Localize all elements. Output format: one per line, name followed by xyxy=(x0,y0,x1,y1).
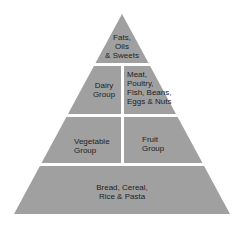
label-line: Rice & Pasta xyxy=(82,192,162,201)
label-fruit-group: Fruit Group xyxy=(142,135,182,153)
label-line: Group xyxy=(142,144,182,153)
label-fats-oils-sweets: Fats, Oils & Sweets xyxy=(96,33,148,60)
label-meat-group: Meat, Poultry, Fish, Beans, Eggs & Nuts xyxy=(127,70,187,106)
label-line: Meat, xyxy=(127,70,187,79)
label-line: & Sweets xyxy=(96,51,148,60)
label-line: Dairy xyxy=(84,81,124,90)
label-line: Fats, xyxy=(96,33,148,42)
label-bread-cereal-rice-pasta: Bread, Cereal, Rice & Pasta xyxy=(82,183,162,201)
label-line: Oils xyxy=(96,42,148,51)
label-line: Fish, Beans, xyxy=(127,88,187,97)
label-vegetable-group: Vegetable Group xyxy=(74,137,124,155)
label-line: Group xyxy=(84,90,124,99)
label-line: Eggs & Nuts xyxy=(127,97,187,106)
label-line: Group xyxy=(74,146,124,155)
label-dairy-group: Dairy Group xyxy=(84,81,124,99)
label-line: Poultry, xyxy=(127,79,187,88)
label-line: Vegetable xyxy=(74,137,124,146)
label-line: Bread, Cereal, xyxy=(82,183,162,192)
label-line: Fruit xyxy=(142,135,182,144)
